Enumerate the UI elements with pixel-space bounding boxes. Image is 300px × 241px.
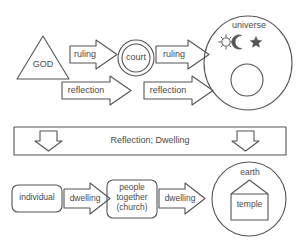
- earth-label: earth: [228, 168, 272, 177]
- people-together-label-line-3: (church): [107, 203, 157, 212]
- temple-label: temple: [231, 200, 268, 209]
- universe-label: universe: [222, 21, 276, 30]
- moon-icon: [232, 35, 242, 49]
- reflection-arrow-1-label: reflection: [63, 86, 109, 95]
- middle-band-left-down-arrow-icon: [35, 131, 62, 151]
- star-icon: [250, 37, 261, 48]
- middle-band-right-down-arrow-icon: [232, 131, 259, 151]
- court-label: court: [119, 53, 153, 62]
- sun-icon: [219, 35, 234, 50]
- dwelling-arrow-1-label: dwelling: [63, 194, 107, 203]
- dwelling-arrow-2-label: dwelling: [158, 194, 202, 203]
- ruling-arrow-2-label: ruling: [158, 50, 190, 59]
- god-triangle: [17, 36, 69, 79]
- universe-inner-circle: [231, 64, 263, 96]
- individual-label: individual: [12, 193, 62, 202]
- ruling-arrow-1-label: ruling: [70, 50, 100, 59]
- people-together-label-line-1: people: [107, 183, 157, 192]
- people-together-label-line-2: together: [107, 193, 157, 202]
- middle-band-label: Reflection; Dwelling: [100, 136, 200, 145]
- god-label: GOD: [25, 60, 61, 69]
- reflection-arrow-2-label: reflection: [145, 86, 191, 95]
- diagram-canvas: GOD ruling court ruling universe reflect…: [0, 0, 300, 241]
